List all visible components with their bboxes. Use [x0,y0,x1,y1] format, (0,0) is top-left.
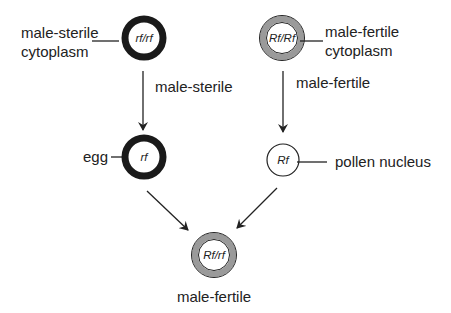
egg-node: egg rf [83,138,163,176]
diagonal-arrow-icon [147,191,188,230]
sterile-parent-label-line1: male-sterile [21,24,99,41]
edge-label-male-fertile: male-fertile [296,74,370,91]
offspring-label: male-fertile [177,288,251,305]
fertile-parent-label-line1: male-fertile [325,23,399,40]
fertile-parent-node: Rf/Rf male-fertile cytoplasm [260,16,400,61]
sterile-parent-genotype: rf/rf [135,32,154,44]
pollen-node: Rf pollen nucleus [267,144,431,176]
edge-fertile-to-pollen: male-fertile [283,71,370,132]
sterile-parent-label-line2: cytoplasm [21,43,89,60]
pollen-genotype: Rf [277,154,290,166]
fertile-parent-genotype: Rf/Rf [269,32,297,44]
sterile-parent-node: rf/rf male-sterile cytoplasm [21,19,163,60]
edge-sterile-to-egg: male-sterile [143,71,233,130]
pollen-label: pollen nucleus [335,153,431,170]
egg-label: egg [83,148,108,165]
fertile-parent-label-line2: cytoplasm [325,42,393,59]
edge-label-male-sterile: male-sterile [155,78,233,95]
diagonal-arrow-icon [237,188,277,228]
offspring-genotype: Rf/rf [203,249,227,261]
offspring-node: Rf/rf male-fertile [177,233,251,306]
cms-inheritance-diagram: rf/rf male-sterile cytoplasm Rf/Rf male-… [0,0,451,313]
